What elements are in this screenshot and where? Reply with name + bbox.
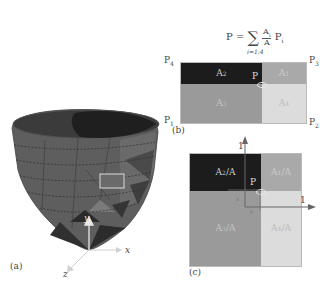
point-p-marker [257,82,267,88]
corner-p3: P3 [309,56,319,67]
sum-index: i=1:4 [247,48,264,55]
cell-subscript: 1 [285,71,289,77]
cell-subscript: 2 [223,71,227,77]
cell-a2: A2 [181,63,262,84]
cell-a1-normalized: A1/A [261,154,301,191]
term-subscript: i [281,37,283,44]
corner-subscript: 4 [170,60,174,67]
y-axis-label: y [84,214,89,223]
corner-subscript: 3 [315,60,319,67]
horizontal-axis-tick: 1 [300,196,306,205]
point-p-marker [256,189,266,195]
cell-a4-normalized: A4/A [261,191,301,266]
point-p-label: P [250,178,256,187]
highlighted-element [100,174,124,188]
cell-a3-normalized: A3/A [190,191,261,266]
cell-a4: A4 [262,84,306,123]
element-rectangle: A2 A1 A3 A4 P [180,62,307,124]
point-p-label: P [252,72,258,81]
cell-suffix: /A [226,224,236,233]
cell-suffix: /A [281,168,291,177]
corner-p2: P2 [309,118,319,129]
cell-subscript: 3 [223,101,227,107]
cell-suffix: /A [226,168,236,177]
panel-c-label: (c) [189,268,201,277]
sum-symbol: ∑ [247,28,258,47]
panel-a-label: (a) [10,262,22,271]
normalized-square: A2/A A1/A A3/A A4/A P [189,153,302,267]
corner-subscript: 2 [315,122,319,129]
heart-mesh-figure [0,0,175,289]
fraction-denominator: A [262,39,271,47]
area-fraction: Ai A [262,28,271,47]
x-axis-label: x [125,246,130,255]
cell-subscript: 4 [285,101,289,107]
vertical-axis-tick: 1 [238,142,244,151]
area-weight-formula: P = ∑ Ai A Pi i=1:4 [226,28,283,47]
cell-a3: A3 [181,84,262,123]
local-coord-s: s [236,196,239,202]
cell-suffix: /A [281,224,291,233]
cell-a1: A1 [262,63,306,84]
panel-b-label: (b) [172,126,185,135]
corner-p4: P4 [164,56,174,67]
numerator-subscript: i [269,32,271,38]
local-coord-r: r [250,209,253,215]
z-axis-label: z [63,270,68,279]
formula-lhs: P = [226,31,244,42]
